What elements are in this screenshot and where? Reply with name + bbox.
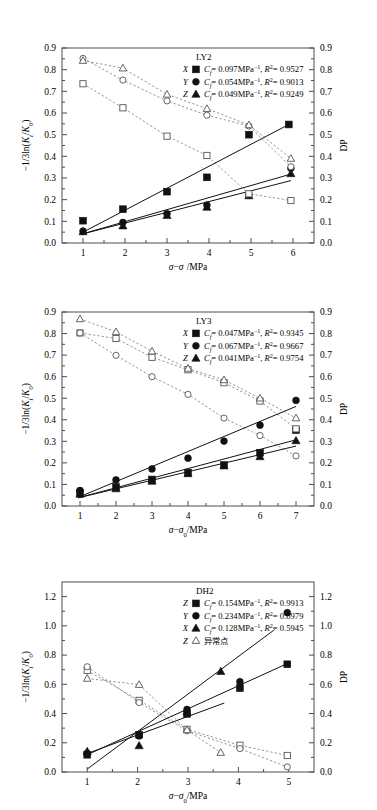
- legend-axis-label: Y: [183, 611, 189, 621]
- y-tick-label-right: 0.6: [320, 680, 332, 690]
- x-tick-label: 1: [78, 511, 83, 521]
- dp-connector-X-DP: [87, 678, 221, 752]
- legend-axis-label: Y: [183, 77, 189, 87]
- legend-axis-label: Z: [183, 636, 188, 646]
- figure-page: 0.00.00.10.10.20.20.30.30.40.40.50.50.60…: [0, 0, 377, 810]
- legend-axis-label: X: [182, 328, 189, 338]
- x-tick-label: 1: [81, 248, 86, 258]
- data-point-X-DP: [246, 191, 252, 197]
- chart-panel-ly2: 0.00.00.10.10.20.20.30.30.40.40.50.50.60…: [0, 0, 377, 270]
- y-tick-label: 0.4: [44, 152, 56, 162]
- data-point-X: [80, 217, 87, 224]
- x-tick-label: 2: [123, 248, 128, 258]
- fit-line-X: [85, 703, 225, 754]
- data-point-Y-DP: [120, 77, 126, 83]
- legend-axis-label: X: [182, 64, 189, 74]
- data-point-X-DP: [217, 749, 224, 756]
- y-tick-label-right: 0.6: [320, 372, 332, 382]
- data-point-X-DP: [149, 354, 155, 360]
- y-tick-label-right: 0.5: [320, 130, 332, 140]
- legend-axis-label: Z: [183, 598, 188, 608]
- y-tick-label: 0.8: [44, 329, 56, 339]
- data-point-X: [120, 206, 127, 213]
- data-point-legend: [192, 90, 200, 97]
- data-point-Y-DP: [113, 352, 119, 358]
- x-tick-label: 3: [165, 248, 170, 258]
- y-tick-label-right: 0.2: [320, 195, 332, 205]
- data-point-X: [164, 188, 171, 195]
- data-point-X: [246, 131, 253, 138]
- legend-title: LY3: [196, 316, 212, 326]
- dp-connector-Y-DP: [83, 58, 291, 166]
- data-point-legend: [192, 624, 200, 631]
- chart-svg-ly2: 0.00.00.10.10.20.20.30.30.40.40.50.50.60…: [0, 0, 377, 270]
- data-point-Z-DP: [284, 752, 290, 758]
- x-tick-label: 5: [286, 777, 291, 787]
- data-point-Y-DP: [164, 98, 170, 104]
- fit-line-X: [78, 440, 296, 498]
- y-tick-label: 0.1: [44, 217, 56, 227]
- legend-entry-text: Cf= 0.234MPa−1, R2= 0.8979: [204, 611, 304, 623]
- data-point-X-DP: [83, 675, 90, 682]
- legend-axis-label: Z: [183, 89, 188, 99]
- x-tick-label: 6: [291, 248, 296, 258]
- y-tick-label: 0.2: [44, 195, 56, 205]
- data-point-legend: [193, 78, 200, 85]
- y-tick-label: 0.8: [44, 65, 56, 75]
- x-tick-label: 1: [85, 777, 90, 787]
- data-point-legend: [192, 354, 200, 361]
- y-tick-label-right: 0.3: [320, 173, 332, 183]
- x-tick-label: 4: [236, 777, 241, 787]
- legend-entry-text: Cf= 0.097MPa−1, R2= 0.9527: [204, 64, 304, 76]
- data-point-Y-DP: [77, 330, 83, 336]
- y-axis-title-left: −1/3ln(Ki/K0): [21, 383, 34, 435]
- y-tick-label: 0.0: [44, 238, 56, 248]
- chart-svg-ly3: 0.00.00.10.10.20.20.30.30.40.40.50.50.60…: [0, 270, 377, 542]
- y-tick-label-right: 0.3: [320, 437, 332, 447]
- legend-entry-text: 异常点: [204, 636, 228, 646]
- y-tick-label-right: 0.8: [320, 329, 332, 339]
- y-tick-label-right: 0.0: [320, 501, 332, 511]
- data-point-Z-DP: [148, 347, 155, 354]
- y-tick-label: 0.2: [44, 738, 56, 748]
- y-axis-title-left: −1/3ln(Ki/K0): [21, 120, 34, 172]
- legend-entry-text: Cf= 0.047MPa−1, R2= 0.9345: [204, 328, 304, 340]
- series-Y: [80, 165, 295, 235]
- y-tick-label: 0.7: [44, 87, 56, 97]
- data-point-X-DP: [288, 197, 294, 203]
- y-tick-label-right: 0.4: [320, 152, 332, 162]
- data-point-X: [204, 174, 211, 181]
- legend-entry-text: Cf= 0.154MPa−1, R2= 0.9913: [204, 598, 304, 610]
- series-Z: [79, 169, 295, 234]
- legend-axis-label: Y: [183, 341, 189, 351]
- data-point-Y-DP: [149, 374, 155, 380]
- data-point-Y-DP: [136, 699, 142, 705]
- y-tick-label: 1.0: [44, 621, 56, 631]
- y-tick-label-right: 0.4: [320, 709, 332, 719]
- y-tick-label: 0.9: [44, 43, 56, 53]
- data-point-Y-DP: [257, 432, 263, 438]
- data-point-X: [135, 741, 143, 748]
- data-point-Y-DP: [204, 112, 210, 118]
- y-axis-title-left: −1/3ln(Ki/K0): [21, 651, 34, 703]
- data-point-Z-DP: [119, 64, 126, 71]
- data-point-Z-DP: [292, 414, 299, 421]
- data-point-X-DP: [80, 81, 86, 87]
- x-tick-label: 2: [135, 777, 140, 787]
- y-tick-label-right: 0.2: [320, 738, 332, 748]
- legend-title: DH2: [196, 586, 214, 596]
- y-tick-label-right: 0.5: [320, 394, 332, 404]
- y-tick-label-right: 0.2: [320, 458, 332, 468]
- y-tick-label-right: 0.8: [320, 650, 332, 660]
- y-axis-title-right: DP: [339, 403, 349, 415]
- data-point-Z-DP: [203, 105, 210, 112]
- data-point-legend: [193, 66, 200, 73]
- y-axis-title-right: DP: [339, 671, 349, 683]
- y-tick-label: 0.6: [44, 372, 56, 382]
- legend-entry-text: Cf= 0.128MPa−1, R2= 0.5945: [204, 623, 304, 635]
- x-tick-label: 6: [258, 511, 263, 521]
- y-tick-label-right: 0.7: [320, 350, 332, 360]
- legend-axis-label: Z: [183, 353, 188, 363]
- data-point-Y: [221, 438, 228, 445]
- y-tick-label: 0.5: [44, 130, 56, 140]
